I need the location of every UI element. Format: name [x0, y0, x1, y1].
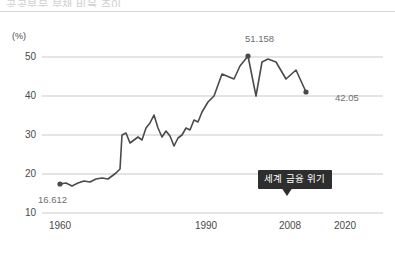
gridlines — [42, 57, 383, 213]
data-label-51158: 51.158 — [245, 33, 274, 44]
chart-canvas — [0, 0, 395, 254]
annotation-callout-tail — [281, 187, 293, 196]
data-label-16612: 16.612 — [38, 194, 67, 205]
data-markers — [57, 53, 308, 186]
marker-peak-2008 — [245, 53, 250, 58]
data-line-series-0 — [60, 56, 306, 186]
data-label-4205: 42.05 — [335, 92, 359, 103]
marker-end-2021 — [303, 89, 308, 94]
chart-figure: 공공부문 부채 비율 추이 (%) 50 40 30 20 10 1960 19… — [0, 0, 395, 254]
annotation-callout: 세계 금융 위기 — [258, 170, 332, 189]
marker-start-1960 — [57, 181, 62, 186]
